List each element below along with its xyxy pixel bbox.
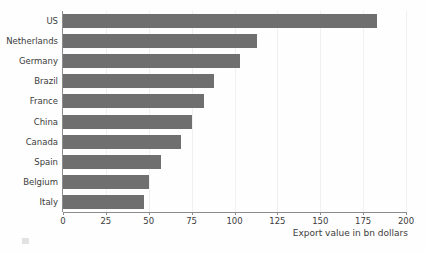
x-tick-label: 50 bbox=[134, 215, 164, 227]
bar-fill bbox=[63, 155, 161, 169]
bar bbox=[63, 115, 192, 129]
bar bbox=[63, 155, 161, 169]
gridline bbox=[406, 11, 407, 212]
bar-fill bbox=[63, 94, 204, 108]
bar bbox=[63, 54, 240, 68]
bar bbox=[63, 34, 257, 48]
x-tick-label: 200 bbox=[391, 215, 421, 227]
bar-fill bbox=[63, 74, 214, 88]
y-axis-category-labels: USNetherlandsGermanyBrazilFranceChinaCan… bbox=[0, 11, 58, 212]
x-tick-label: 125 bbox=[262, 215, 292, 227]
category-label: Germany bbox=[19, 54, 58, 68]
bar bbox=[63, 195, 144, 209]
bar-fill bbox=[63, 175, 149, 189]
x-tick-label: 100 bbox=[220, 215, 250, 227]
category-label: US bbox=[46, 14, 58, 28]
category-label: Netherlands bbox=[6, 34, 58, 48]
scan-artifact bbox=[22, 238, 29, 244]
category-label: Brazil bbox=[34, 74, 58, 88]
bar bbox=[63, 175, 149, 189]
bar-chart: USNetherlandsGermanyBrazilFranceChinaCan… bbox=[0, 0, 426, 253]
x-tick-label: 175 bbox=[348, 215, 378, 227]
bar-fill bbox=[63, 115, 192, 129]
x-tick-label: 150 bbox=[305, 215, 335, 227]
category-label: Belgium bbox=[23, 175, 58, 189]
bar-series bbox=[63, 11, 406, 212]
bar-fill bbox=[63, 135, 181, 149]
category-label: China bbox=[34, 115, 58, 129]
category-label: Italy bbox=[40, 195, 58, 209]
x-tick-label: 0 bbox=[48, 215, 78, 227]
y-axis-line bbox=[62, 11, 63, 212]
bar-fill bbox=[63, 34, 257, 48]
bar-fill bbox=[63, 195, 144, 209]
bar bbox=[63, 74, 214, 88]
x-tick-label: 25 bbox=[91, 215, 121, 227]
category-label: Spain bbox=[34, 155, 58, 169]
category-label: Canada bbox=[26, 135, 58, 149]
bar bbox=[63, 94, 204, 108]
x-axis-title: Export value in bn dollars bbox=[293, 228, 408, 238]
bar bbox=[63, 14, 377, 28]
bar bbox=[63, 135, 181, 149]
bar-fill bbox=[63, 14, 377, 28]
category-label: France bbox=[30, 94, 58, 108]
plot-area bbox=[63, 11, 406, 212]
x-tick-label: 75 bbox=[177, 215, 207, 227]
bar-fill bbox=[63, 54, 240, 68]
